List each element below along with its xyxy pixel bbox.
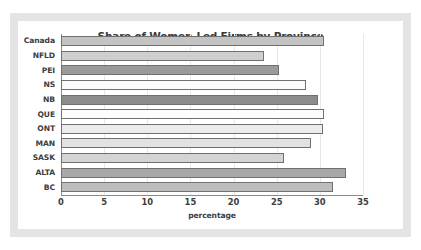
bar-row (61, 151, 363, 166)
bar-row (61, 107, 363, 122)
x-tick-0: 0 (58, 197, 64, 207)
bar-pei (61, 65, 279, 75)
bars-layer (61, 34, 363, 195)
x-tick-25: 25 (271, 197, 283, 207)
bar-sask (61, 153, 284, 163)
x-axis-line (61, 195, 363, 196)
y-label-pei: PEI (42, 66, 55, 75)
y-label-sask: SASK (33, 153, 55, 162)
y-label-ns: NS (43, 80, 55, 89)
y-label-ont: ONT (37, 124, 55, 133)
y-label-que: QUE (37, 110, 55, 119)
bar-ns (61, 80, 306, 90)
x-tick-35: 35 (357, 197, 369, 207)
y-label-nfld: NFLD (33, 51, 55, 60)
x-axis-title: percentage (61, 211, 363, 220)
x-tick-10: 10 (141, 197, 153, 207)
bar-nfld (61, 51, 264, 61)
bar-bc (61, 182, 333, 192)
plot-area (61, 34, 363, 195)
bar-row (61, 166, 363, 181)
bar-row (61, 122, 363, 137)
bar-row (61, 49, 363, 64)
y-label-nb: NB (43, 95, 55, 104)
bar-row (61, 93, 363, 108)
bar-canada (61, 36, 324, 46)
x-tick-20: 20 (228, 197, 240, 207)
y-axis-category-labels: CanadaNFLDPEINSNBQUEONTMANSASKALTABC (18, 34, 58, 195)
figure-panel: Share of Women-Led Firms by Province Can… (18, 21, 403, 229)
x-tick-30: 30 (314, 197, 326, 207)
y-label-man: MAN (36, 139, 56, 148)
bar-row (61, 78, 363, 93)
x-tick-15: 15 (185, 197, 197, 207)
y-label-bc: BC (44, 183, 55, 192)
bar-row (61, 63, 363, 78)
y-label-canada: Canada (24, 36, 55, 45)
bar-row (61, 180, 363, 195)
bar-man (61, 138, 311, 148)
bar-row (61, 136, 363, 151)
bar-row (61, 34, 363, 49)
x-tick-5: 5 (101, 197, 107, 207)
figure-frame: Share of Women-Led Firms by Province Can… (10, 13, 411, 237)
bar-que (61, 109, 324, 119)
bar-nb (61, 95, 318, 105)
bar-alta (61, 168, 346, 178)
bar-ont (61, 124, 323, 134)
x-axis-tick-labels: 05101520253035 (61, 197, 363, 211)
gridline-35 (363, 34, 364, 195)
y-label-alta: ALTA (35, 168, 55, 177)
